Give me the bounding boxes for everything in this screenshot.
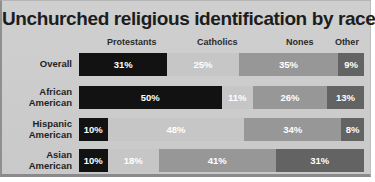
bar-segment-nones: 35% bbox=[239, 53, 339, 76]
row-label-line: Hispanic bbox=[32, 119, 72, 130]
row-label-line: Overall bbox=[40, 59, 72, 70]
chart-title: Unchurched religious identification by r… bbox=[2, 8, 373, 30]
row-label-hispanic-american: HispanicAmerican bbox=[2, 118, 72, 141]
chart-row: Overall31%25%35%9% bbox=[2, 53, 373, 76]
column-header-catholics: Catholics bbox=[182, 37, 253, 47]
bar-segment-protestants: 31% bbox=[79, 53, 167, 76]
column-header-protestants: Protestants bbox=[88, 37, 176, 47]
bar-segment-protestants: 50% bbox=[79, 86, 222, 109]
row-label-line: American bbox=[29, 98, 72, 109]
bar-segment-protestants: 10% bbox=[79, 149, 108, 172]
chart-row: AsianAmerican10%18%41%31% bbox=[2, 149, 373, 172]
bar-segment-nones: 34% bbox=[244, 118, 341, 141]
column-header-nones: Nones bbox=[264, 37, 335, 47]
bar-segment-protestants: 10% bbox=[79, 118, 108, 141]
row-label-line: Asian bbox=[46, 150, 72, 161]
stacked-bar: 10%18%41%31% bbox=[79, 149, 364, 172]
row-label-african-american: AfricanAmerican bbox=[2, 86, 72, 109]
row-label-line: American bbox=[29, 161, 72, 172]
chart-card: Unchurched religious identification by r… bbox=[0, 0, 371, 177]
column-header-other: Other bbox=[330, 37, 364, 47]
bar-segment-catholics: 48% bbox=[108, 118, 245, 141]
row-label-line: African bbox=[39, 87, 72, 98]
chart-row: HispanicAmerican10%48%34%8% bbox=[2, 118, 373, 141]
bar-segment-other: 8% bbox=[341, 118, 364, 141]
bar-segment-catholics: 18% bbox=[108, 149, 159, 172]
bar-segment-other: 31% bbox=[276, 149, 364, 172]
stacked-bar: 50%11%26%13% bbox=[79, 86, 364, 109]
bar-segment-nones: 41% bbox=[159, 149, 276, 172]
row-label-overall: Overall bbox=[2, 53, 72, 76]
chart-row: AfricanAmerican50%11%26%13% bbox=[2, 86, 373, 109]
row-label-line: American bbox=[29, 130, 72, 141]
row-label-asian-american: AsianAmerican bbox=[2, 149, 72, 172]
bar-segment-catholics: 25% bbox=[167, 53, 238, 76]
stacked-bar: 31%25%35%9% bbox=[79, 53, 364, 76]
bar-segment-nones: 26% bbox=[253, 86, 327, 109]
bar-segment-other: 9% bbox=[338, 53, 364, 76]
bar-segment-catholics: 11% bbox=[222, 86, 253, 109]
chart-column-headers: ProtestantsCatholicsNonesOther bbox=[79, 37, 364, 51]
stacked-bar: 10%48%34%8% bbox=[79, 118, 364, 141]
bar-segment-other: 13% bbox=[327, 86, 364, 109]
